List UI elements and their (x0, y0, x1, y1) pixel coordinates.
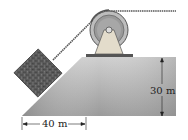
diagram-canvas (0, 0, 188, 140)
horizontal-dimension-label: 40 m (42, 119, 67, 129)
vertical-dimension-label: 30 m (150, 86, 175, 96)
